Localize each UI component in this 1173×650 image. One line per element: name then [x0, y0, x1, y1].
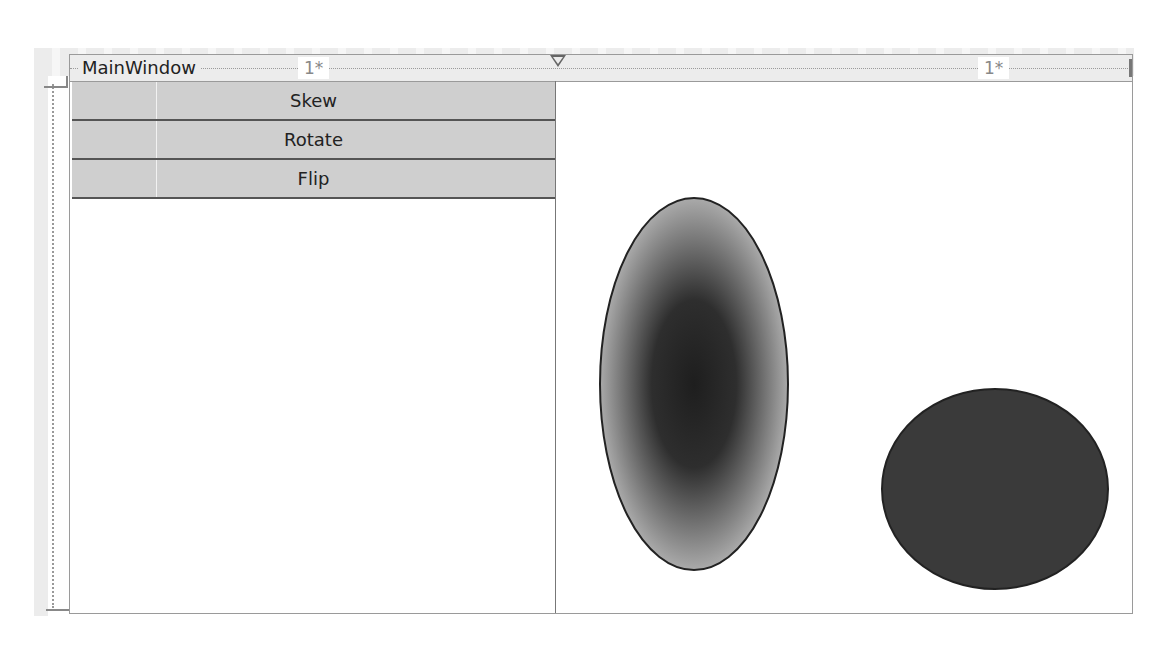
main-window: MainWindow 1* 1* Skew Rotate Flip — [69, 54, 1133, 614]
window-title: MainWindow — [78, 57, 200, 79]
row-end-marker — [46, 609, 70, 611]
column-guide-line — [70, 68, 1132, 69]
rotate-button-label: Rotate — [284, 129, 343, 150]
column-2-width-label[interactable]: 1* — [978, 57, 1009, 79]
shapes-svg — [556, 82, 1132, 613]
guide-line — [156, 160, 157, 197]
column-1-width-label[interactable]: 1* — [298, 57, 329, 79]
row-guide-line — [52, 84, 54, 608]
solid-ellipse[interactable] — [882, 389, 1108, 589]
button-stack: Skew Rotate Flip — [72, 82, 555, 199]
column-header-bar[interactable]: MainWindow 1* 1* — [70, 55, 1132, 81]
skew-button[interactable]: Skew — [72, 82, 555, 121]
flip-button[interactable]: Flip — [72, 160, 555, 199]
row-marker — [44, 76, 68, 88]
shape-canvas — [556, 82, 1132, 613]
flip-button-label: Flip — [298, 168, 330, 189]
guide-line — [156, 121, 157, 158]
gradient-ellipse[interactable] — [600, 198, 788, 570]
guide-line — [156, 82, 157, 119]
skew-button-label: Skew — [290, 90, 337, 111]
column-splitter-handle-icon[interactable] — [550, 55, 566, 67]
rotate-button[interactable]: Rotate — [72, 121, 555, 160]
left-ruler — [34, 76, 48, 616]
column-end-marker — [1129, 59, 1132, 77]
